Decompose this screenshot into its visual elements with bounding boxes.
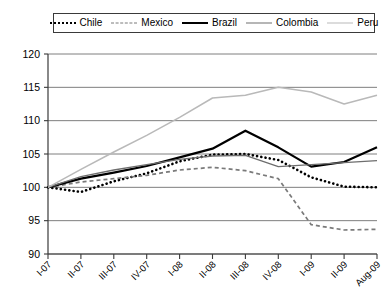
x-tick-label: I-09 (297, 259, 316, 278)
x-tick-label: II-07 (65, 259, 86, 280)
y-tick-label: 110 (23, 114, 40, 126)
y-tick-label: 95 (28, 214, 40, 226)
y-tick-label: 120 (22, 48, 40, 60)
y-tick-labels: 9095100105110115120 (22, 48, 40, 260)
x-tick-label: II-08 (197, 259, 218, 280)
x-axis-ticks (48, 254, 377, 259)
x-tick-label: I-08 (166, 259, 185, 278)
data-series-lines (48, 87, 377, 230)
x-tick-label: IV-07 (129, 259, 152, 282)
x-tick-labels: I-07II-07III-07IV-07I-08II-08III-08IV-08… (34, 259, 382, 288)
x-tick-label: IV-08 (260, 259, 283, 282)
x-tick-label: II-09 (328, 259, 349, 280)
y-tick-label: 90 (28, 248, 40, 260)
x-tick-label: III-08 (228, 259, 251, 282)
x-tick-label: I-07 (34, 259, 53, 278)
line-chart: Chile Mexico Brazil Colombia Peru 909510… (0, 0, 391, 308)
y-tick-label: 115 (23, 81, 40, 93)
x-tick-label: Aug-09 (353, 259, 382, 288)
plot-area: 9095100105110115120 I-07II-07III-07IV-07… (0, 0, 391, 308)
series-line-peru (48, 87, 377, 187)
series-line-brazil (48, 131, 377, 188)
y-tick-label: 100 (22, 181, 40, 193)
x-tick-label: III-07 (96, 259, 119, 282)
y-tick-label: 105 (22, 148, 40, 160)
